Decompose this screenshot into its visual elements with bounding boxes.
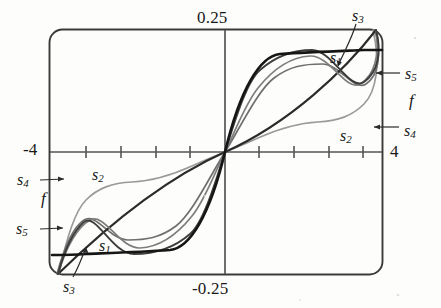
curve-label-s1-top: s1 bbox=[330, 50, 342, 67]
fourier-partial-sums-figure bbox=[0, 0, 441, 308]
curve-label-f-right: f bbox=[409, 92, 414, 109]
curve-label-s4-right: s4 bbox=[404, 123, 416, 140]
curve-label-s1-left: s1 bbox=[99, 238, 111, 255]
curve-label-s3-top: s3 bbox=[352, 8, 364, 25]
curve-label-s2-left: s2 bbox=[92, 167, 104, 184]
curve-label-f-left: f bbox=[41, 190, 46, 207]
curve-label-s4-left: s4 bbox=[17, 172, 29, 189]
curve-label-s5-left: s5 bbox=[16, 221, 28, 238]
axis-label-left: -4 bbox=[23, 141, 38, 158]
axis-label-bottom: -0.25 bbox=[192, 280, 228, 297]
curve-label-s2-right: s2 bbox=[340, 128, 352, 145]
axis-label-right: 4 bbox=[390, 143, 399, 160]
axis-label-top: 0.25 bbox=[197, 9, 228, 26]
curve-label-s5-top: s5 bbox=[405, 66, 417, 83]
curve-label-s3-bottom: s3 bbox=[63, 279, 75, 296]
